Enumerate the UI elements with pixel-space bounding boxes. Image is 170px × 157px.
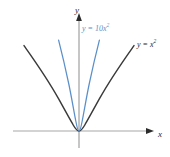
- curve-label-y-equals-10x-squared: y = 10x2: [82, 25, 109, 33]
- x-axis-label: x: [158, 130, 162, 139]
- curve-label-y-equals-x-squared: y = x2: [137, 41, 156, 49]
- x-axis-arrowhead-icon: [146, 128, 154, 134]
- parabola-comparison-figure: y x y = 10x2 y = x2: [0, 0, 170, 157]
- curve-label-black-base: y = x: [137, 40, 154, 49]
- curve-label-blue-base: y = 10x: [82, 24, 107, 33]
- y-axis-label: y: [75, 6, 79, 15]
- curve-label-blue-exponent: 2: [107, 22, 110, 28]
- curve-label-black-exponent: 2: [154, 38, 157, 44]
